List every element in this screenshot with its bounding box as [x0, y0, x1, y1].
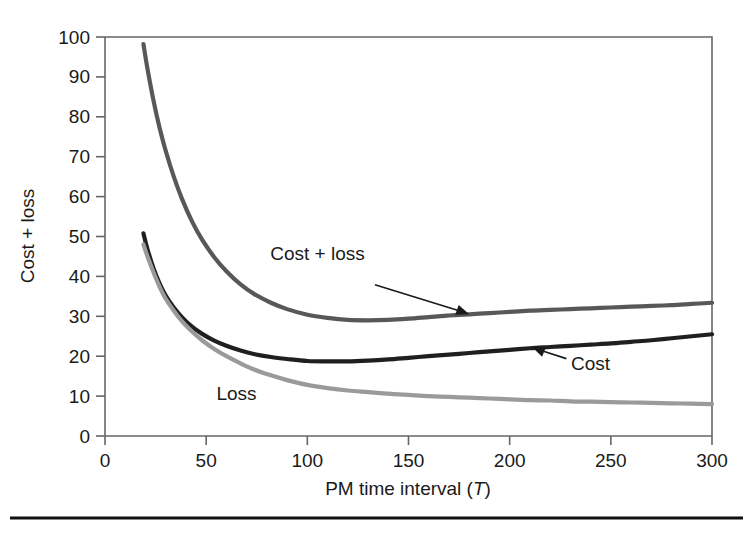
y-axis-tick-labels: 0102030405060708090100 [58, 27, 90, 447]
figure-container: 0102030405060708090100 05010015020025030… [0, 0, 753, 533]
y-axis-ticks [96, 37, 105, 436]
x-tick-label: 250 [595, 450, 627, 471]
y-axis-title: Cost + loss [17, 189, 38, 284]
annotation-label-cost: Cost [571, 353, 611, 374]
y-tick-label: 80 [69, 106, 90, 127]
y-tick-label: 50 [69, 226, 90, 247]
annotation-arrow-line [375, 285, 461, 311]
y-tick-label: 30 [69, 306, 90, 327]
annotation-arrow-head [532, 347, 546, 357]
annotation-arrow-line [540, 350, 566, 358]
y-tick-label: 0 [79, 426, 90, 447]
x-tick-label: 150 [393, 450, 425, 471]
plot-frame [105, 37, 712, 436]
x-axis-title: PM time interval (T) [325, 478, 491, 499]
x-tick-label: 100 [291, 450, 323, 471]
x-axis-tick-labels: 050100150200250300 [100, 450, 728, 471]
y-tick-label: 100 [58, 27, 90, 48]
y-tick-label: 90 [69, 66, 90, 87]
x-tick-label: 0 [100, 450, 111, 471]
x-tick-label: 300 [696, 450, 728, 471]
x-axis-ticks [105, 436, 712, 445]
annotation-arrow-head [455, 305, 469, 315]
series-line-loss [143, 244, 712, 404]
data-series-group [143, 44, 712, 404]
annotation-label-cost-loss: Cost + loss [270, 243, 365, 264]
y-tick-label: 70 [69, 146, 90, 167]
series-annotations: Cost + lossCostLoss [216, 243, 610, 404]
x-tick-label: 200 [494, 450, 526, 471]
y-tick-label: 10 [69, 386, 90, 407]
series-line-cost-loss [143, 44, 712, 320]
y-tick-label: 20 [69, 346, 90, 367]
chart-svg: 0102030405060708090100 05010015020025030… [0, 0, 753, 533]
series-line-cost [143, 233, 712, 361]
y-tick-label: 40 [69, 266, 90, 287]
annotation-label-loss: Loss [216, 383, 256, 404]
x-tick-label: 50 [196, 450, 217, 471]
y-tick-label: 60 [69, 186, 90, 207]
